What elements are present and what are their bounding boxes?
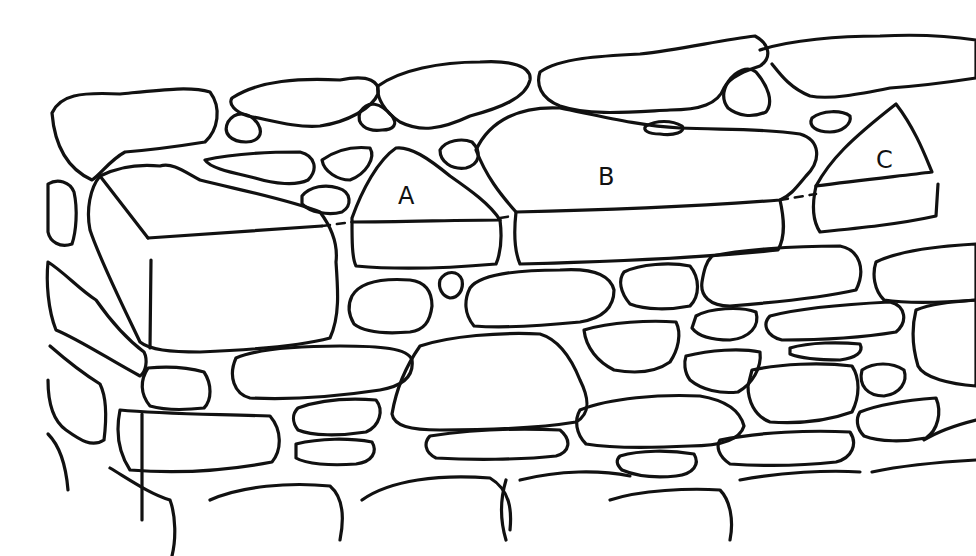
stone-wall-drawing bbox=[0, 0, 976, 556]
stone-label-c: C bbox=[876, 146, 893, 174]
stone-label-a: A bbox=[398, 182, 414, 210]
stone-label-b: B bbox=[598, 163, 614, 191]
